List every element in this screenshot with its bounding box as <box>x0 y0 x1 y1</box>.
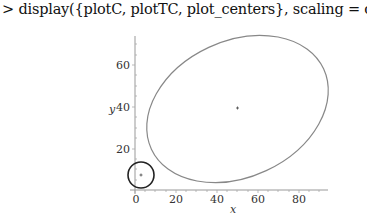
x-tick-60: 60 <box>251 193 265 206</box>
x-tick-80: 80 <box>292 193 306 206</box>
x-tick-20: 20 <box>169 193 183 206</box>
y-tick-20: 20 <box>116 143 130 156</box>
y-axis-label: y <box>108 103 116 116</box>
x-axis-label: x <box>230 203 237 216</box>
plot-canvas: 0 20 40 60 80 20 40 60 x y <box>0 0 367 219</box>
center-points <box>140 107 240 177</box>
y-tick-40: 40 <box>116 101 130 114</box>
x-tick-40: 40 <box>210 193 224 206</box>
x-tick-0: 0 <box>133 193 140 206</box>
y-tick-60: 60 <box>116 59 130 72</box>
